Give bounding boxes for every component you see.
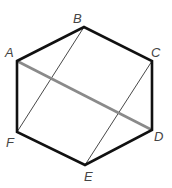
segment-ad [17, 61, 152, 130]
vertex-label-e: E [84, 169, 93, 184]
diagram-svg: A B C D E F [0, 0, 172, 188]
hexagon-diagram: A B C D E F [0, 0, 172, 188]
vertex-label-c: C [151, 45, 161, 60]
vertex-label-a: A [4, 45, 14, 60]
vertex-label-d: D [154, 129, 163, 144]
vertex-label-b: B [73, 11, 82, 26]
vertex-label-f: F [6, 135, 15, 150]
